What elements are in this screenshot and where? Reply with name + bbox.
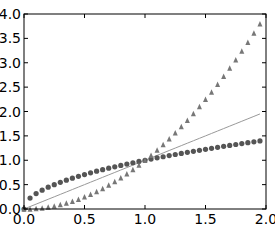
triangle-marker <box>112 179 117 185</box>
chart: 0.00.51.01.52.0 0.00.51.01.52.02.53.03.5… <box>0 0 275 227</box>
triangle-marker <box>203 97 208 103</box>
y-tick-label: 1.0 <box>0 152 21 168</box>
y-tick-label: 3.5 <box>0 30 21 46</box>
circle-marker <box>239 141 244 146</box>
circle-marker <box>34 191 39 196</box>
y-tick-label: 0.5 <box>0 177 21 193</box>
triangle-marker <box>106 182 111 188</box>
circle-marker <box>167 153 172 158</box>
triangle-marker <box>94 189 99 195</box>
circle-marker <box>179 151 184 156</box>
triangle-marker <box>239 48 244 54</box>
circle-marker <box>155 155 160 160</box>
circle-marker <box>40 188 45 193</box>
triangle-marker <box>40 205 45 211</box>
plot-area <box>21 21 262 212</box>
circle-marker <box>209 146 214 151</box>
circle-marker <box>173 152 178 157</box>
y-tick-label: 4.0 <box>0 6 21 22</box>
y-tick-label: 3.0 <box>0 55 21 71</box>
triangle-marker <box>88 192 93 198</box>
circle-marker <box>88 170 93 175</box>
circle-marker <box>94 169 99 174</box>
triangle-marker <box>76 196 81 202</box>
triangle-marker <box>179 124 184 130</box>
circle-marker <box>106 166 111 171</box>
circle-marker <box>82 172 87 177</box>
series-2 <box>22 21 263 212</box>
circle-marker <box>64 178 69 183</box>
triangle-marker <box>221 74 226 80</box>
triangle-marker <box>70 198 75 204</box>
circle-marker <box>100 167 105 172</box>
triangle-marker <box>185 117 190 123</box>
circle-marker <box>130 160 135 165</box>
triangle-marker <box>118 175 123 181</box>
triangle-marker <box>149 153 154 159</box>
triangle-marker <box>173 130 178 136</box>
x-tick-label: 2.0 <box>255 211 275 227</box>
triangle-marker <box>227 65 232 71</box>
x-tick-label: 1.5 <box>194 211 216 227</box>
triangle-marker <box>58 202 63 208</box>
triangle-marker <box>245 39 250 45</box>
circle-marker <box>221 144 226 149</box>
x-tick-label: 1.0 <box>134 211 156 227</box>
circle-marker <box>185 150 190 155</box>
x-tick-label: 0.5 <box>73 211 95 227</box>
circle-marker <box>118 163 123 168</box>
circle-marker <box>124 161 129 166</box>
circle-marker <box>257 138 262 143</box>
triangle-marker <box>124 171 129 177</box>
triangle-marker <box>100 186 105 192</box>
circle-marker <box>46 185 51 190</box>
circle-marker <box>70 176 75 181</box>
triangle-marker <box>233 57 238 63</box>
triangle-marker <box>215 81 220 87</box>
circle-marker <box>76 174 81 179</box>
line-series <box>24 114 260 209</box>
triangle-marker <box>197 104 202 110</box>
y-tick-label: 2.0 <box>0 104 21 120</box>
triangle-marker <box>130 167 135 173</box>
x-tick-labels: 0.00.51.01.52.0 <box>13 211 275 227</box>
circle-marker <box>215 145 220 150</box>
circle-marker <box>245 140 250 145</box>
y-tick-label: 0.0 <box>0 201 21 217</box>
circle-marker <box>227 143 232 148</box>
triangle-marker <box>209 89 214 95</box>
y-tick-labels: 0.00.51.01.52.02.53.03.54.0 <box>0 6 21 217</box>
triangle-marker <box>52 203 57 209</box>
circle-marker <box>251 139 256 144</box>
y-tick-label: 2.5 <box>0 79 21 95</box>
circle-marker <box>203 147 208 152</box>
series-0 <box>24 114 260 209</box>
series-1 <box>21 138 262 211</box>
triangle-marker <box>167 136 172 142</box>
circle-marker <box>52 182 57 187</box>
triangle-marker <box>257 21 262 27</box>
triangle-marker <box>155 147 160 153</box>
y-tick-label: 1.5 <box>0 128 21 144</box>
triangle-marker <box>82 194 87 200</box>
triangle-marker <box>64 200 69 206</box>
triangle-marker <box>191 111 196 117</box>
circle-marker <box>27 195 32 200</box>
circle-marker <box>112 164 117 169</box>
triangle-marker <box>251 30 256 36</box>
triangle-marker <box>161 142 166 148</box>
circle-marker <box>161 154 166 159</box>
circle-marker <box>233 142 238 147</box>
circle-marker <box>197 148 202 153</box>
circle-marker <box>191 149 196 154</box>
circle-marker <box>58 180 63 185</box>
